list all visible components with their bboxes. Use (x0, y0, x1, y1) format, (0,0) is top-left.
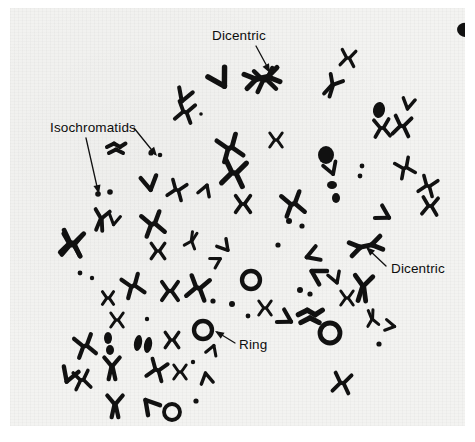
annotation-dicentric-top: Dicentric (212, 28, 270, 73)
annotation-layer: Dicentric Isochromatids Dicentric Ring (10, 8, 465, 426)
arrowhead-isochromatids-a (93, 184, 100, 194)
arrowhead-ring (215, 331, 225, 339)
label-isochromatids: Isochromatids (50, 120, 136, 135)
label-dicentric-right: Dicentric (391, 261, 445, 276)
label-dicentric-top: Dicentric (212, 28, 266, 43)
chromosome-micrograph: Dicentric Isochromatids Dicentric Ring (10, 8, 465, 426)
figure-container: Dicentric Isochromatids Dicentric Ring (0, 0, 475, 442)
label-ring: Ring (239, 337, 267, 352)
leader-line-isochromatids-a (86, 138, 98, 191)
annotation-ring: Ring (215, 331, 267, 352)
arrowhead-dicentric-top (263, 63, 270, 73)
annotation-isochromatids: Isochromatids (50, 120, 157, 194)
annotation-dicentric-right: Dicentric (366, 247, 445, 276)
